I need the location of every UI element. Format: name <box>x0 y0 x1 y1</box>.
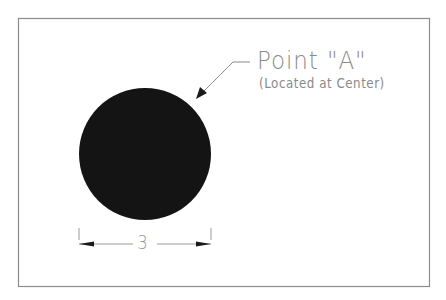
callout-title: Point "A" <box>257 47 367 75</box>
dimension-arrow-left-icon <box>79 242 94 247</box>
leader-arrowhead-icon <box>196 87 207 99</box>
filled-circle <box>79 88 211 220</box>
dimension-value: 3 <box>137 230 148 254</box>
callout-subtitle: (Located at Center) <box>259 75 385 91</box>
drawing-canvas <box>0 0 446 300</box>
leader-line <box>196 62 250 99</box>
dimension-arrow-right-icon <box>196 242 211 247</box>
